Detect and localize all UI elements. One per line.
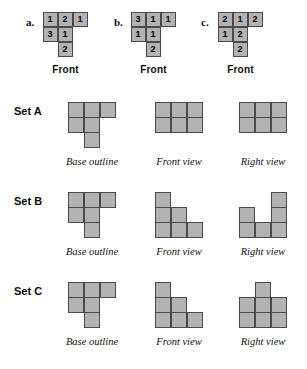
base-plan-cell-empty [73, 42, 88, 57]
shape-cell-filled [155, 117, 171, 133]
base-plan-cell: 1 [43, 12, 58, 27]
shape-cell-filled [68, 297, 84, 313]
set-a-base-outline-caption: Base outline [57, 156, 127, 167]
shape-cell-filled [255, 282, 271, 298]
shape-cell-filled [84, 132, 100, 148]
shape-cell-filled [239, 312, 255, 328]
base-plan-cell-empty [73, 27, 88, 42]
shape-cell-empty [68, 312, 84, 328]
shape-cell-filled [155, 222, 171, 238]
shape-cell-filled [84, 312, 100, 328]
base-plan-cell-empty [161, 27, 176, 42]
set-c-front-view-grid [155, 282, 203, 327]
set-b-front-view-caption: Front view [144, 246, 214, 257]
shape-cell-filled [84, 207, 100, 223]
set-c-base-outline-grid [68, 282, 116, 327]
set-b-right-view-caption: Right view [228, 246, 298, 257]
shape-cell-filled [239, 222, 255, 238]
base-plan-b-letter: b. [114, 16, 123, 28]
set-c-row: Set C Base outline Front view Right view [0, 277, 307, 367]
shape-cell-empty [100, 222, 116, 238]
base-plan-a-letter: a. [26, 16, 34, 28]
shape-cell-filled [187, 222, 203, 238]
set-b-front-view-figure: Front view [144, 192, 214, 257]
numbered-base-plans-section: a. 121312 Front b. 311112 Front c. 21212… [0, 0, 307, 90]
base-plan-cell: 3 [131, 12, 146, 27]
shape-cell-empty [255, 207, 271, 223]
shape-cell-filled [271, 312, 287, 328]
base-plan-c: c. 212122 Front [218, 12, 263, 57]
set-c-base-outline-figure: Base outline [57, 282, 127, 347]
shape-cell-empty [239, 282, 255, 298]
set-b-base-outline-figure: Base outline [57, 192, 127, 257]
shape-cell-empty [100, 117, 116, 133]
shape-cell-filled [68, 102, 84, 118]
set-b-right-view-figure: Right view [228, 192, 298, 257]
shape-cell-filled [255, 297, 271, 313]
base-plan-cell: 2 [248, 12, 263, 27]
set-a-right-view-caption: Right view [228, 156, 298, 167]
base-plan-cell-empty [43, 42, 58, 57]
shape-cell-filled [155, 297, 171, 313]
shape-cell-filled [155, 207, 171, 223]
shape-cell-filled [271, 207, 287, 223]
set-c-front-view-figure: Front view [144, 282, 214, 347]
shape-cell-empty [100, 207, 116, 223]
set-c-front-view-caption: Front view [144, 336, 214, 347]
base-plan-cell: 3 [43, 27, 58, 42]
base-plan-cell: 2 [233, 42, 248, 57]
shape-cell-filled [100, 192, 116, 208]
shape-cell-empty [271, 282, 287, 298]
base-plan-a-front-label: Front [43, 64, 88, 75]
shape-cell-filled [100, 282, 116, 298]
shape-cell-filled [155, 282, 171, 298]
shape-cell-filled [171, 117, 187, 133]
shape-cell-empty [68, 132, 84, 148]
shape-cell-filled [68, 207, 84, 223]
base-plan-cell: 1 [73, 12, 88, 27]
shape-cell-filled [84, 117, 100, 133]
base-plan-cell: 2 [58, 12, 73, 27]
shape-cell-empty [68, 222, 84, 238]
set-a-base-outline-figure: Base outline [57, 102, 127, 167]
set-c-title: Set C [14, 285, 42, 297]
shape-cell-filled [271, 297, 287, 313]
set-c-right-view-figure: Right view [228, 282, 298, 347]
base-plan-cell: 1 [131, 27, 146, 42]
shape-cell-filled [171, 297, 187, 313]
shape-cell-filled [239, 207, 255, 223]
set-b-base-outline-caption: Base outline [57, 246, 127, 257]
shape-cell-empty [171, 192, 187, 208]
base-plan-cell-empty [218, 42, 233, 57]
base-plan-a: a. 121312 Front [43, 12, 88, 57]
base-plan-cell-empty [161, 42, 176, 57]
shape-cell-empty [255, 192, 271, 208]
shape-cell-filled [155, 102, 171, 118]
shape-cell-filled [239, 297, 255, 313]
set-a-right-view-figure: Right view [228, 102, 298, 167]
shape-cell-filled [68, 117, 84, 133]
shape-cell-filled [187, 102, 203, 118]
base-plan-cell: 2 [58, 42, 73, 57]
shape-cell-filled [271, 192, 287, 208]
base-plan-cell: 2 [233, 27, 248, 42]
base-plan-c-front-label: Front [218, 64, 263, 75]
shape-cell-empty [187, 297, 203, 313]
set-a-right-view-grid [239, 102, 287, 132]
shape-cell-empty [171, 282, 187, 298]
set-b-title: Set B [14, 195, 42, 207]
set-b-row: Set B Base outline Front view Right view [0, 187, 307, 277]
base-plan-cell: 1 [233, 12, 248, 27]
shape-cell-filled [187, 312, 203, 328]
set-a-row: Set A Base outline Front view Right view [0, 97, 307, 187]
shape-cell-filled [255, 102, 271, 118]
shape-cell-filled [84, 102, 100, 118]
base-plan-b: b. 311112 Front [131, 12, 176, 57]
base-plan-cell: 2 [146, 42, 161, 57]
set-c-right-view-caption: Right view [228, 336, 298, 347]
shape-cell-filled [84, 282, 100, 298]
shape-cell-filled [255, 222, 271, 238]
set-b-right-view-grid [239, 192, 287, 237]
shape-cell-empty [187, 207, 203, 223]
set-b-front-view-grid [155, 192, 203, 237]
